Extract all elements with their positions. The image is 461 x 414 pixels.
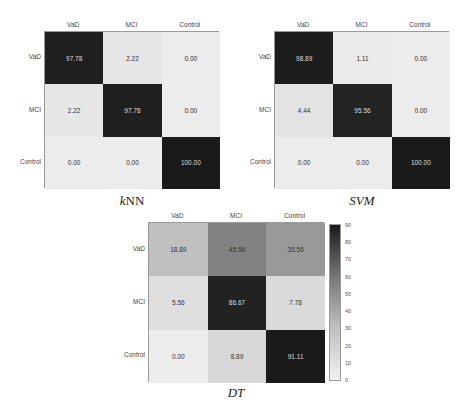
matrix-cell: 45.56 bbox=[208, 223, 267, 276]
colorbar-tick: 80 bbox=[345, 239, 351, 245]
colorbar-tick: 40 bbox=[345, 308, 351, 314]
column-label: Control bbox=[160, 21, 220, 28]
colorbar-tick: 30 bbox=[345, 325, 351, 331]
column-label: VaD bbox=[147, 212, 207, 219]
matrix-cell: 0.00 bbox=[333, 137, 391, 189]
matrix-cell: 91.11 bbox=[266, 330, 325, 383]
matrix-cell: 0.00 bbox=[392, 84, 450, 136]
matrix-cell: 0.00 bbox=[149, 330, 208, 383]
matrix-cell: 35.56 bbox=[266, 223, 325, 276]
row-label: Control bbox=[105, 351, 145, 358]
matrix-cell: 97.78 bbox=[45, 32, 103, 84]
matrix-cell: 5.56 bbox=[149, 276, 208, 329]
caption-knn-rest: NN bbox=[126, 193, 145, 208]
matrix-cell: 18.89 bbox=[149, 223, 208, 276]
matrix-cell: 98.89 bbox=[275, 32, 333, 84]
row-label: Control bbox=[1, 158, 41, 165]
row-label: MCI bbox=[1, 106, 41, 113]
matrix-cell: 7.78 bbox=[266, 276, 325, 329]
column-label: MCI bbox=[332, 21, 392, 28]
column-label: Control bbox=[265, 212, 325, 219]
row-label: VaD bbox=[1, 53, 41, 60]
row-label: VaD bbox=[105, 245, 145, 252]
row-label: MCI bbox=[231, 106, 271, 113]
caption-svm: SVM bbox=[302, 193, 422, 209]
column-label: VaD bbox=[43, 21, 103, 28]
matrix-cell: 0.00 bbox=[275, 137, 333, 189]
matrix-cell: 2.22 bbox=[45, 84, 103, 136]
colorbar-tick: 60 bbox=[345, 274, 351, 280]
colorbar-tick: 20 bbox=[345, 343, 351, 349]
caption-knn: kNN bbox=[72, 193, 192, 209]
colorbar-tick: 10 bbox=[345, 360, 351, 366]
column-label: VaD bbox=[273, 21, 333, 28]
matrix-cell: 100.00 bbox=[162, 137, 220, 189]
matrix-cell: 0.00 bbox=[162, 32, 220, 84]
column-label: MCI bbox=[102, 21, 162, 28]
matrix-cell: 0.00 bbox=[45, 137, 103, 189]
column-label: Control bbox=[390, 21, 450, 28]
matrix-cell: 100.00 bbox=[392, 137, 450, 189]
matrix-cell: 0.00 bbox=[103, 137, 161, 189]
confusion-matrix-dt: 18.8945.5635.565.5686.677.780.008.8991.1… bbox=[148, 222, 324, 382]
colorbar-tick: 90 bbox=[345, 222, 351, 228]
row-label: MCI bbox=[105, 298, 145, 305]
colorbar bbox=[329, 224, 341, 381]
confusion-matrix-knn: 97.782.220.002.2297.780.000.000.00100.00 bbox=[44, 31, 219, 188]
matrix-cell: 86.67 bbox=[208, 276, 267, 329]
confusion-matrix-svm: 98.891.110.004.4495.560.000.000.00100.00 bbox=[274, 31, 449, 188]
colorbar-tick: 0 bbox=[345, 377, 348, 383]
matrix-cell: 0.00 bbox=[392, 32, 450, 84]
colorbar-tick: 50 bbox=[345, 291, 351, 297]
matrix-cell: 8.89 bbox=[208, 330, 267, 383]
matrix-cell: 4.44 bbox=[275, 84, 333, 136]
row-label: VaD bbox=[231, 53, 271, 60]
matrix-cell: 2.22 bbox=[103, 32, 161, 84]
matrix-cell: 1.11 bbox=[333, 32, 391, 84]
row-label: Control bbox=[231, 158, 271, 165]
caption-dt: DT bbox=[176, 385, 296, 401]
colorbar-tick: 70 bbox=[345, 256, 351, 262]
matrix-cell: 97.78 bbox=[103, 84, 161, 136]
matrix-cell: 0.00 bbox=[162, 84, 220, 136]
matrix-cell: 95.56 bbox=[333, 84, 391, 136]
column-label: MCI bbox=[206, 212, 266, 219]
